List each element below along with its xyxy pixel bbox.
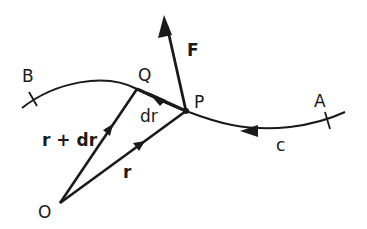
work-line-integral-diagram: B Q F P A dr c r + dr r O (0, 0, 367, 229)
label-b: B (22, 66, 34, 86)
point-p-dot (183, 108, 189, 114)
label-r-plus-dr: r + dr (42, 130, 98, 150)
label-dr: dr (140, 106, 158, 126)
label-r: r (123, 162, 132, 182)
label-o: O (38, 202, 51, 222)
label-curve-c: c (276, 135, 285, 155)
endpoint-a-mark-icon (325, 112, 330, 129)
r-vector (60, 111, 186, 203)
label-force: F (187, 40, 199, 60)
dr-arrowhead-icon (148, 92, 166, 106)
label-a: A (314, 91, 326, 111)
force-vector (167, 26, 186, 111)
force-arrowhead-icon (158, 15, 172, 38)
r-plus-dr-arrowhead-icon (103, 124, 113, 136)
label-q: Q (138, 65, 151, 85)
label-p: P (194, 92, 204, 112)
